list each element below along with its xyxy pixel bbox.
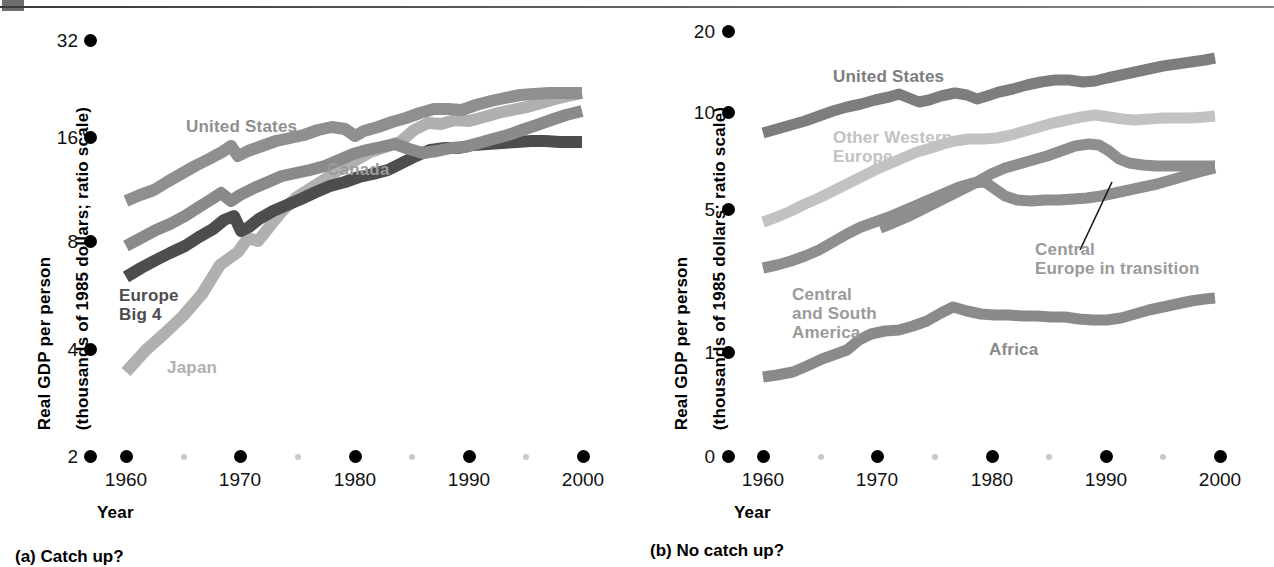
chart-panel-catch-up: Real GDP per person (thousands of 1985 d… [0,0,637,564]
series-label-other-western-europe: Other WesternEurope [833,128,952,166]
chart-lines-a [0,0,637,564]
series-label-canada-a: Canada [327,160,390,179]
series-label-europe-big-4: EuropeBig 4 [119,286,179,324]
series-label-central-and-south-america: Centraland SouthAmerica [792,285,877,342]
series-label-united-states-b: United States [833,67,944,86]
panel-caption-b: (b) No catch up? [650,541,784,561]
chart-panel-no-catch-up: Real GDP per person (thousands of 1985 d… [637,0,1274,564]
series-label-central-europe-in-transition: CentralEurope in transition [1035,240,1200,278]
chart-lines-b [637,0,1274,564]
series-label-japan: Japan [167,358,217,377]
series-label-united-states-a: United States [186,117,297,136]
panel-caption-a: (a) Catch up? [15,547,124,567]
series-label-africa: Africa [989,340,1038,359]
